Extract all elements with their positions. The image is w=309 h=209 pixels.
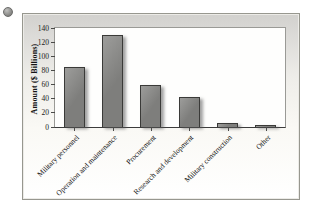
y-axis-tick-label: 120: [21, 38, 49, 47]
x-axis-tick: [74, 127, 75, 131]
bar: [64, 67, 85, 127]
x-axis-tick: [151, 127, 152, 131]
bar: [102, 35, 123, 127]
y-axis-tick-label: 60: [21, 80, 49, 89]
y-axis-tick: [51, 84, 55, 85]
x-axis-tick: [113, 127, 114, 131]
plot-area: 020406080100120140Military personnelOper…: [54, 27, 286, 128]
x-axis-tick: [228, 127, 229, 131]
list-bullet-icon: [3, 7, 13, 17]
y-axis-tick-label: 20: [21, 108, 49, 117]
bar: [179, 97, 200, 127]
y-axis-tick: [51, 42, 55, 43]
x-tick-label: Other: [254, 133, 272, 151]
y-axis-tick-label: 140: [21, 24, 49, 33]
y-axis-tick: [51, 70, 55, 71]
y-axis-tick: [51, 112, 55, 113]
y-axis-tick-label: 40: [21, 94, 49, 103]
page: Amount ($ Billions) 020406080100120140Mi…: [0, 0, 309, 209]
y-axis-tick: [51, 56, 55, 57]
y-axis-tick-label: 80: [21, 66, 49, 75]
y-axis-tick: [51, 28, 55, 29]
x-axis-tick: [189, 127, 190, 131]
x-axis-tick: [266, 127, 267, 131]
y-axis-tick-label: 0: [21, 123, 49, 132]
x-tick-label: Procurement: [124, 133, 157, 166]
y-axis-tick: [51, 98, 55, 99]
chart-frame: Amount ($ Billions) 020406080100120140Mi…: [22, 13, 300, 200]
bar: [140, 85, 161, 127]
y-axis-tick: [51, 127, 55, 128]
y-axis-tick-label: 100: [21, 52, 49, 61]
